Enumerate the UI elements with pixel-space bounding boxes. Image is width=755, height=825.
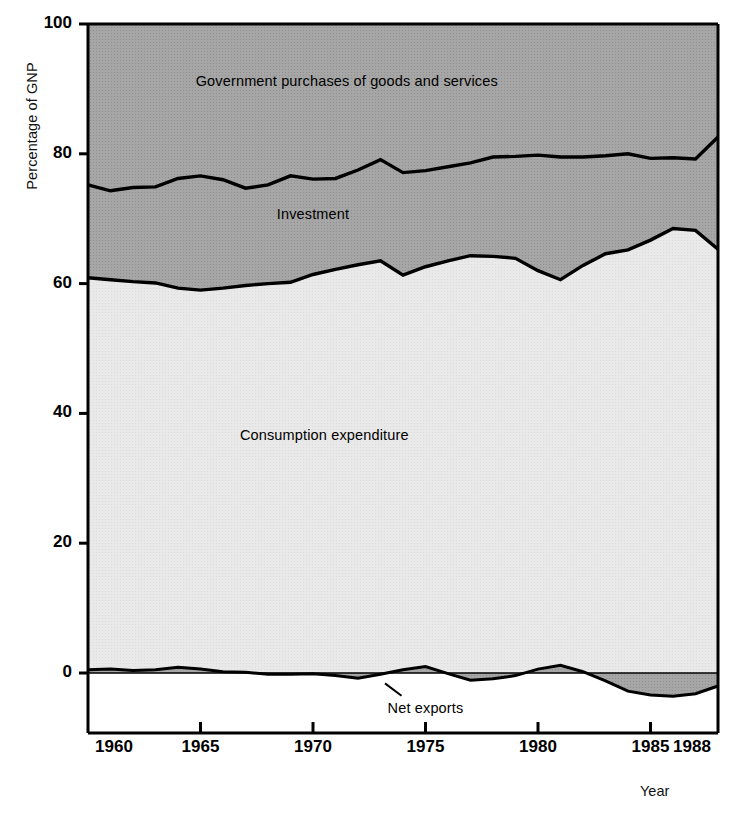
x-tick-1965: 1965 <box>166 737 236 757</box>
x-tick-1975: 1975 <box>391 737 461 757</box>
area-chart-svg <box>0 0 755 825</box>
y-axis-title: Percentage of GNP <box>24 26 40 226</box>
y-tick-20: 20 <box>26 532 72 552</box>
chart-figure: Percentage of GNP 020406080100 196019651… <box>0 0 755 825</box>
x-tick-1980: 1980 <box>503 737 573 757</box>
x-tick-1960: 1960 <box>79 737 149 757</box>
x-tick-1970: 1970 <box>278 737 348 757</box>
chart-series-layer <box>88 24 718 696</box>
net-exports-leader-line <box>385 683 402 695</box>
y-tick-0: 0 <box>26 662 72 682</box>
x-tick-1988: 1988 <box>657 737 727 757</box>
band-label-government-purchases-of-goods-and-services: Government purchases of goods and servic… <box>196 73 498 89</box>
band-label-consumption-expenditure: Consumption expenditure <box>240 427 409 443</box>
chart-annotation-leaders <box>385 683 402 695</box>
y-tick-60: 60 <box>26 273 72 293</box>
band-label-net-exports: Net exports <box>388 700 464 716</box>
y-tick-80: 80 <box>26 143 72 163</box>
band-label-investment: Investment <box>277 206 349 222</box>
x-axis-title: Year <box>640 783 669 799</box>
y-tick-100: 100 <box>26 13 72 33</box>
y-tick-40: 40 <box>26 402 72 422</box>
